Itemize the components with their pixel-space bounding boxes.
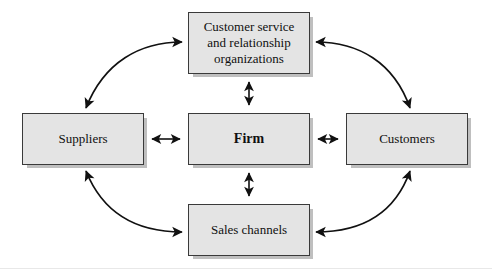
node-customers[interactable]: Customers	[346, 113, 468, 165]
node-sales-channels[interactable]: Sales channels	[188, 204, 310, 256]
connector-suppliers-sales-channels	[86, 171, 182, 232]
node-customer-service-label: Customer service and relationship organi…	[200, 19, 299, 68]
node-sales-channels-label: Sales channels	[207, 222, 291, 238]
node-suppliers[interactable]: Suppliers	[22, 113, 144, 165]
node-customers-label: Customers	[375, 131, 439, 147]
node-firm[interactable]: Firm	[188, 113, 310, 165]
node-suppliers-label: Suppliers	[54, 131, 111, 147]
connector-suppliers-customer-service	[86, 42, 182, 108]
connector-sales-channels-customers	[316, 171, 410, 232]
node-customer-service[interactable]: Customer service and relationship organi…	[188, 12, 310, 74]
node-firm-label: Firm	[230, 130, 268, 148]
connector-customer-service-customers	[316, 42, 410, 108]
bottom-divider	[0, 268, 492, 269]
relationship-diagram: Customer service and relationship organi…	[0, 0, 492, 275]
